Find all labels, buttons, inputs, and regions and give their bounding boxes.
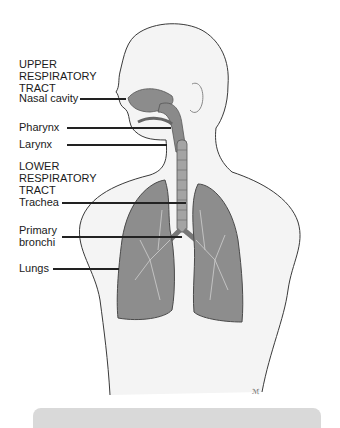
label-lungs: Lungs bbox=[19, 262, 49, 274]
caption-bar bbox=[33, 408, 321, 428]
label-primary-line1: Primary bbox=[19, 224, 57, 236]
label-trachea: Trachea bbox=[19, 196, 59, 208]
lower-tract-heading: LOWER RESPIRATORY TRACT bbox=[19, 160, 97, 196]
label-pharynx: Pharynx bbox=[19, 121, 59, 133]
artist-signature: ℳ bbox=[252, 388, 260, 396]
label-primary-line2: bronchi bbox=[19, 236, 57, 248]
label-primary-bronchi: Primary bronchi bbox=[19, 224, 57, 248]
upper-heading-line1: UPPER bbox=[19, 58, 97, 70]
leader-line-trachea bbox=[62, 202, 186, 204]
leader-line-larynx bbox=[67, 144, 167, 146]
lower-heading-line2: RESPIRATORY bbox=[19, 172, 97, 184]
label-nasal-cavity: Nasal cavity bbox=[19, 92, 78, 104]
leader-line-primary-bronchi bbox=[62, 236, 182, 238]
trachea bbox=[177, 140, 187, 232]
label-larynx: Larynx bbox=[19, 138, 52, 150]
body-outline bbox=[79, 24, 300, 395]
leader-line-nasal-cavity bbox=[80, 98, 126, 100]
lower-heading-line1: LOWER bbox=[19, 160, 97, 172]
upper-heading-line2: RESPIRATORY bbox=[19, 70, 97, 82]
leader-line-lungs bbox=[53, 268, 119, 270]
upper-tract-heading: UPPER RESPIRATORY TRACT bbox=[19, 58, 97, 94]
lower-heading-line3: TRACT bbox=[19, 184, 97, 196]
leader-line-pharynx bbox=[67, 127, 171, 129]
